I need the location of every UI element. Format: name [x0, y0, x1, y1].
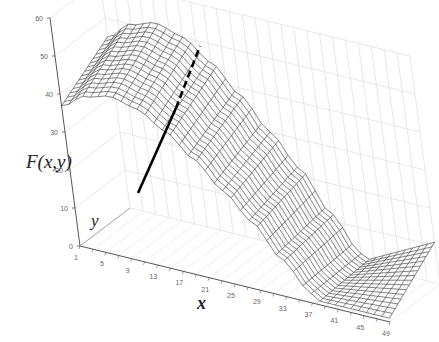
- svg-text:17: 17: [175, 279, 183, 286]
- svg-text:0: 0: [69, 243, 73, 250]
- svg-text:25: 25: [227, 292, 235, 299]
- svg-text:13: 13: [150, 273, 158, 280]
- svg-text:29: 29: [253, 298, 261, 305]
- back-wall-grid: [50, 0, 439, 284]
- svg-text:50: 50: [40, 53, 48, 60]
- svg-text:37: 37: [305, 311, 313, 318]
- svg-text:40: 40: [45, 91, 53, 98]
- x-axis: 15913172125293337414549: [74, 246, 390, 337]
- x-axis-title: x: [197, 293, 206, 314]
- z-axis: 0102030405060: [35, 15, 80, 250]
- svg-text:33: 33: [279, 305, 287, 312]
- svg-text:9: 9: [126, 267, 130, 274]
- svg-text:49: 49: [382, 330, 390, 337]
- svg-text:41: 41: [330, 317, 338, 324]
- svg-text:5: 5: [100, 260, 104, 267]
- y-axis-title: y: [91, 211, 99, 231]
- svg-text:1: 1: [74, 254, 78, 261]
- z-axis-title: F(x,y): [26, 151, 72, 173]
- svg-text:10: 10: [60, 205, 68, 212]
- svg-text:60: 60: [35, 15, 43, 22]
- svg-text:45: 45: [356, 324, 364, 331]
- svg-text:30: 30: [50, 129, 58, 136]
- svg-text:21: 21: [201, 286, 209, 293]
